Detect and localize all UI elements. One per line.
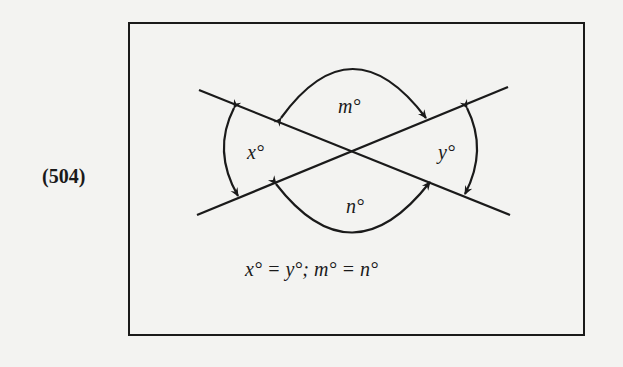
arc-y-arrow (465, 108, 477, 194)
angle-label-x: x° (246, 141, 264, 163)
angle-label-m: m° (338, 95, 360, 117)
angle-label-n: n° (346, 195, 364, 217)
arc-x-arrow (224, 108, 238, 196)
angle-label-y: y° (436, 141, 455, 164)
equation-caption: x° = y°; m° = n° (0, 258, 623, 281)
intersecting-lines-diagram: m° n° x° y° (0, 0, 623, 367)
